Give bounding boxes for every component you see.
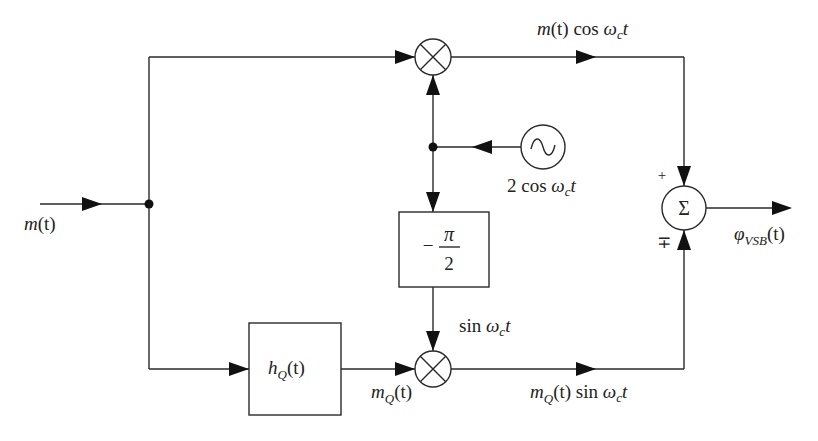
summer-sign-bottom: ∓ — [657, 233, 671, 252]
arrow-input-right — [82, 197, 102, 211]
top-multiplier — [415, 39, 451, 75]
arrow-oscillator-left — [472, 140, 492, 154]
bottom-branch-label: mQ(t) sin ωct — [530, 381, 628, 406]
summer-sign-top: + — [658, 167, 666, 183]
input-label: m(t) — [24, 213, 56, 235]
phase-shifter-block: − π 2 — [399, 212, 489, 287]
arrow-bottom-output-right — [576, 362, 596, 376]
arrow-carrier-up — [426, 75, 440, 95]
arrow-output-right — [772, 201, 792, 215]
arrow-carrier-down — [426, 192, 440, 212]
arrow-top-into-multiplier — [395, 50, 415, 64]
phase-shifter-denominator: 2 — [444, 253, 454, 274]
top-branch-label: m(t) cos ωct — [537, 18, 629, 42]
carrier-sin-label: sin ωct — [459, 315, 511, 339]
carrier-junction-dot — [429, 143, 438, 152]
oscillator-label: 2 cos ωct — [507, 175, 577, 199]
arrow-bottom-into-summer — [677, 230, 691, 250]
split-junction-dot — [145, 200, 154, 209]
output-label: φVSB(t) — [734, 223, 785, 248]
arrow-hq-into-multiplier — [395, 362, 415, 376]
arrow-bottom-into-hq — [229, 362, 249, 376]
phase-shifter-numerator: π — [444, 223, 455, 245]
vsb-modulator-diagram: − π 2 hQ(t) Σ + ∓ m(t) m(t) cos ωct 2 co… — [0, 0, 818, 441]
bottom-multiplier — [415, 351, 451, 387]
arrow-top-output-right — [576, 50, 596, 64]
hilbert-filter-block: hQ(t) — [249, 323, 341, 415]
phase-shifter-minus: − — [423, 235, 434, 256]
mq-label: mQ(t) — [371, 381, 412, 406]
arrow-top-into-summer — [677, 166, 691, 186]
oscillator — [521, 125, 565, 169]
arrow-shifter-down — [426, 331, 440, 351]
sigma-icon: Σ — [678, 197, 690, 219]
